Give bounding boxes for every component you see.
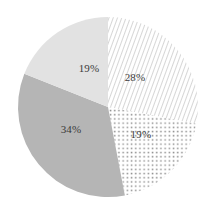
pie-chart-svg [0,0,212,213]
pie-slice [108,17,198,124]
slice-label-3: 34% [61,123,82,134]
slice-label-2: 19% [131,128,152,139]
pie-slices [18,17,198,197]
slice-label-1: 28% [125,72,146,83]
pie-chart: 28% 19% 34% 19% [0,0,212,213]
slice-label-4: 19% [79,63,100,74]
